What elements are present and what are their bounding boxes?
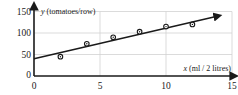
y-tick-label-0: 0 (26, 70, 31, 80)
data-point (165, 26, 166, 27)
y-tick-label-50: 50 (22, 50, 32, 60)
data-points (58, 22, 195, 59)
x-tick-label-0: 0 (32, 81, 37, 91)
x-axis-label: x (ml / 2 litres) (182, 64, 231, 73)
y-axis-label: y (tomatoes/row) (40, 7, 96, 16)
data-point (192, 24, 193, 25)
y-tick-label-100: 100 (17, 28, 32, 38)
data-point (113, 37, 114, 38)
plot-area: 150 100 50 0 0 5 10 15 y (tomatoes/row) … (0, 0, 238, 95)
scatter-plot-figure: 150 100 50 0 0 5 10 15 y (tomatoes/row) … (0, 0, 238, 95)
x-axis-label-units: (ml / 2 litres) (187, 64, 231, 73)
x-tick-label-5: 5 (98, 81, 103, 91)
data-point (86, 43, 87, 44)
y-axis-label-units: (tomatoes/row) (45, 7, 96, 16)
x-tick-label-15: 15 (227, 81, 237, 91)
data-point (60, 56, 61, 57)
trend-line (34, 17, 215, 59)
y-tick-label-150: 150 (17, 7, 32, 17)
data-point (139, 31, 140, 32)
x-tick-label-10: 10 (161, 81, 171, 91)
